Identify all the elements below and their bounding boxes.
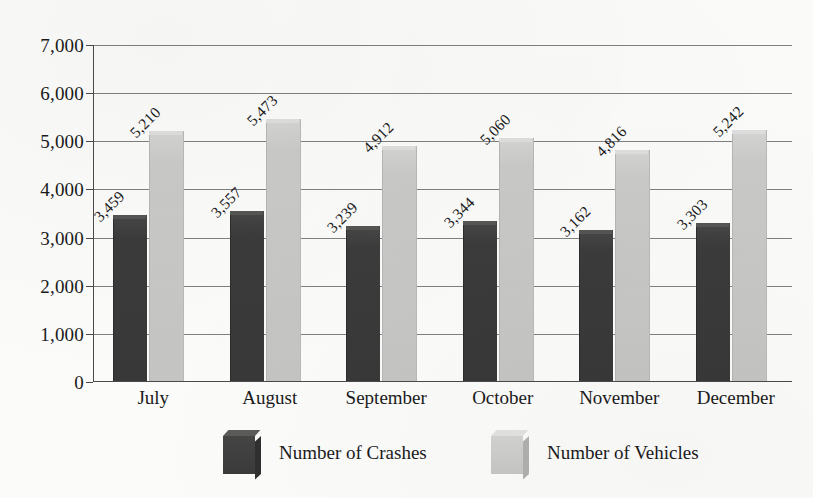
swatch-cube-side bbox=[523, 436, 529, 479]
bar-top-bevel bbox=[579, 230, 612, 234]
y-axis-line bbox=[93, 45, 94, 382]
bar-face bbox=[266, 119, 301, 382]
legend-label: Number of Vehicles bbox=[547, 443, 699, 462]
bar-face bbox=[113, 215, 147, 382]
chart-legend: Number of CrashesNumber of Vehicles bbox=[93, 428, 792, 480]
bar-face bbox=[499, 138, 534, 382]
legend-item[interactable]: Number of Crashes bbox=[223, 428, 427, 476]
bar-vehicles bbox=[382, 146, 415, 382]
y-axis-tick-label: 1,000 bbox=[12, 324, 84, 343]
y-axis-tick-mark bbox=[86, 45, 93, 46]
bar-vehicles bbox=[149, 131, 182, 382]
y-axis-tick-label: 6,000 bbox=[12, 84, 84, 103]
swatch-cube-side bbox=[255, 436, 261, 479]
y-axis-tick-mark bbox=[86, 141, 93, 142]
bar-face bbox=[346, 226, 380, 382]
x-axis: JulyAugustSeptemberOctoberNovemberDecemb… bbox=[93, 388, 792, 414]
bar-top-bevel bbox=[696, 223, 729, 227]
bar-face bbox=[615, 150, 650, 382]
bar-crashes bbox=[696, 223, 729, 382]
bar-crashes bbox=[579, 230, 612, 382]
bar-face bbox=[149, 131, 184, 382]
plot-area: 3,4595,2103,5575,4733,2394,9123,3445,060… bbox=[93, 45, 792, 382]
bar-chart: 7,0006,0005,0004,0003,0002,0001,0000 3,4… bbox=[0, 0, 813, 498]
bar-vehicles bbox=[732, 130, 765, 382]
bar-top-bevel bbox=[463, 221, 496, 225]
bar-face bbox=[230, 211, 264, 382]
x-axis-tick-label: October bbox=[472, 388, 533, 407]
bar-top-bevel bbox=[113, 215, 146, 219]
y-axis-tick-mark bbox=[86, 238, 93, 239]
y-axis-tick-mark bbox=[86, 286, 93, 287]
bar-top-bevel bbox=[615, 150, 648, 154]
bar-face bbox=[463, 221, 497, 382]
y-axis-tick-mark bbox=[86, 189, 93, 190]
bar-face bbox=[382, 146, 417, 382]
bar-crashes bbox=[230, 211, 263, 382]
y-axis-tick-label: 3,000 bbox=[12, 228, 84, 247]
bar-vehicles bbox=[615, 150, 648, 382]
y-axis-tick-label: 2,000 bbox=[12, 276, 84, 295]
y-axis-tick-mark bbox=[86, 93, 93, 94]
bar-top-bevel bbox=[149, 131, 182, 135]
bar-top-bevel bbox=[499, 138, 532, 142]
y-axis: 7,0006,0005,0004,0003,0002,0001,0000 bbox=[8, 0, 84, 498]
bar-vehicles bbox=[499, 138, 532, 382]
y-axis-tick-mark bbox=[86, 382, 93, 383]
bar-crashes bbox=[463, 221, 496, 382]
y-axis-tick-label: 7,000 bbox=[12, 36, 84, 55]
bar-top-bevel bbox=[346, 226, 379, 230]
light-cube-swatch bbox=[491, 430, 529, 474]
x-axis-tick-label: August bbox=[242, 388, 297, 407]
bar-top-bevel bbox=[732, 130, 765, 134]
bar-face bbox=[579, 230, 613, 382]
bar-face bbox=[696, 223, 730, 382]
y-axis-tick-label: 4,000 bbox=[12, 180, 84, 199]
swatch-cube-face bbox=[491, 436, 523, 474]
swatch-cube-face bbox=[223, 436, 255, 474]
bar-face bbox=[732, 130, 767, 382]
legend-label: Number of Crashes bbox=[279, 443, 427, 462]
bar-top-bevel bbox=[230, 211, 263, 215]
bar-top-bevel bbox=[382, 146, 415, 150]
x-axis-tick-label: December bbox=[697, 388, 775, 407]
x-axis-line bbox=[93, 381, 792, 382]
y-axis-tick-label: 5,000 bbox=[12, 132, 84, 151]
y-axis-tick-mark bbox=[86, 334, 93, 335]
x-axis-tick-label: November bbox=[579, 388, 659, 407]
bar-vehicles bbox=[266, 119, 299, 382]
bar-series-container: 3,4595,2103,5575,4733,2394,9123,3445,060… bbox=[93, 45, 792, 382]
x-axis-tick-label: July bbox=[137, 388, 169, 407]
bar-top-bevel bbox=[266, 119, 299, 123]
bar-crashes bbox=[346, 226, 379, 382]
y-axis-tick-label: 0 bbox=[12, 373, 84, 392]
bar-crashes bbox=[113, 215, 146, 382]
dark-cube-swatch bbox=[223, 430, 261, 474]
legend-item[interactable]: Number of Vehicles bbox=[491, 428, 699, 476]
x-axis-tick-label: September bbox=[346, 388, 427, 407]
